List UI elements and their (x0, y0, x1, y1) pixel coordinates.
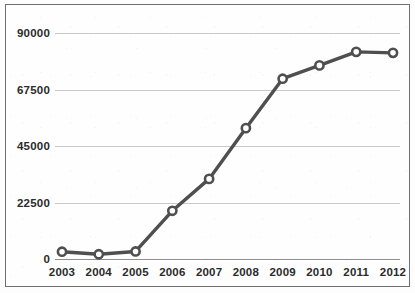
x-axis-tick-label: 2007 (196, 266, 222, 278)
data-point-marker: 2012: 82100 (389, 49, 397, 57)
y-axis-tick-label: 22500 (6, 197, 50, 209)
data-point-marker: 2011: 82500 (352, 48, 360, 56)
y-axis-tick-label: 67500 (6, 84, 50, 96)
x-axis-tick-label: 2010 (306, 266, 332, 278)
x-axis-tick-label: 2009 (269, 266, 295, 278)
chart-figure: 2003: 29002004: 19002005: 30002006: 1920… (0, 0, 415, 293)
series-line-path (62, 52, 393, 254)
x-axis-tick-label: 2005 (122, 266, 148, 278)
y-axis-tick-label: 0 (6, 253, 50, 265)
x-axis-tick-label: 2003 (49, 266, 75, 278)
x-axis-tick-label: 2006 (159, 266, 185, 278)
y-axis-tick-label: 90000 (6, 27, 50, 39)
line-series: 2003: 29002004: 19002005: 30002006: 1920… (55, 33, 400, 259)
y-axis-tick-label: 45000 (6, 140, 50, 152)
data-point-marker: 2007: 31900 (205, 175, 213, 183)
plot-area: 2003: 29002004: 19002005: 30002006: 1920… (55, 33, 400, 259)
data-point-marker: 2009: 71800 (279, 75, 287, 83)
x-axis-tick-label: 2008 (233, 266, 259, 278)
x-axis-tick-label: 2004 (86, 266, 112, 278)
data-point-marker: 2010: 77100 (315, 61, 323, 69)
data-point-marker: 2004: 1900 (95, 250, 103, 258)
data-point-marker: 2006: 19200 (168, 207, 176, 215)
x-axis-tick-label: 2012 (380, 266, 406, 278)
data-point-marker: 2008: 52100 (242, 124, 250, 132)
data-point-marker: 2003: 2900 (58, 248, 66, 256)
axis-baseline (55, 259, 400, 260)
data-point-marker: 2005: 3000 (131, 247, 139, 255)
chart-border: 2003: 29002004: 19002005: 30002006: 1920… (5, 4, 410, 287)
x-axis-tick-label: 2011 (343, 266, 369, 278)
